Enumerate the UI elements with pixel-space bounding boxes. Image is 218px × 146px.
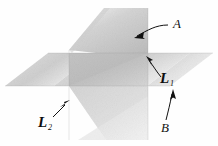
plane-intersection-overlap — [69, 53, 148, 86]
leader-line-l2 — [53, 100, 70, 117]
geometry-figure: A B L 1 L 2 — [0, 0, 218, 146]
plane-a-label: A — [172, 16, 181, 31]
arrow-head-b — [170, 89, 176, 100]
figure-canvas: A B L 1 L 2 — [0, 0, 218, 146]
line-l2-subscript: 2 — [48, 123, 52, 132]
line-l2-label: L — [37, 114, 47, 130]
arrow-head-l2 — [60, 100, 70, 107]
line-l1-subscript: 1 — [170, 79, 174, 88]
leader-plane-b — [166, 89, 176, 120]
plane-a-shape-upper — [69, 8, 148, 53]
leader-line-l2-stroke — [53, 105, 65, 117]
plane-a-upper-panel — [69, 8, 148, 53]
plane-b-label: B — [161, 120, 169, 135]
plane-a-shape-lower — [69, 86, 148, 140]
line-l1-label: L — [159, 70, 169, 86]
